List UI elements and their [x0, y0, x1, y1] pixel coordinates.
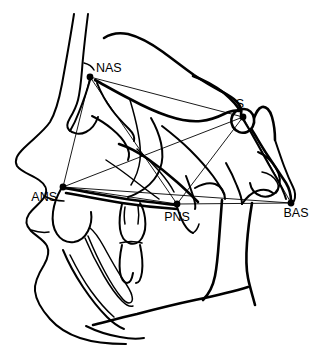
landmark-point-pns[interactable]: [174, 201, 181, 208]
mandibular-inner-cortex: [70, 255, 114, 317]
cranial-base-outer-contour: [104, 33, 241, 114]
posterior-clinoid-process: [254, 107, 275, 140]
upper-central-incisor: [120, 203, 146, 244]
mandibular-canal: [88, 228, 132, 303]
landmark-point-s[interactable]: [240, 114, 247, 121]
soft-palate-tip: [193, 224, 199, 233]
landmark-label-ans: ANS: [31, 190, 57, 204]
landmark-label-pns: PNS: [164, 210, 190, 224]
cephalometric-tracing-svg: NASSANSPNSBAS: [0, 0, 317, 361]
chin-soft-contour: [86, 326, 144, 339]
landmark-point-ans[interactable]: [60, 184, 67, 191]
mandibular-ramus-posterior: [246, 203, 255, 305]
frontal-sinus: [84, 63, 94, 70]
landmark-label-s: S: [236, 97, 244, 111]
cephalometric-figure: NASSANSPNSBAS: [0, 0, 317, 361]
landmark-label-nas: NAS: [96, 61, 122, 75]
lower-central-incisor: [120, 245, 143, 283]
sella-turcica-outline: [231, 109, 254, 133]
posterior-pharyngeal-wall: [203, 200, 222, 300]
measurement-lines-group: [63, 77, 291, 204]
mandibular-canal-outer: [85, 238, 133, 306]
upper-incisor-detail: [124, 206, 139, 224]
lower-lip-contour: [31, 230, 49, 232]
mandibular-body-inferior: [93, 287, 248, 325]
coronoid-process: [226, 163, 242, 204]
anatomy-outline-group: [16, 14, 295, 344]
landmark-point-nas[interactable]: [87, 74, 94, 81]
landmark-labels-group: NASSANSPNSBAS: [31, 61, 308, 224]
landmark-label-bas: BAS: [283, 206, 308, 220]
